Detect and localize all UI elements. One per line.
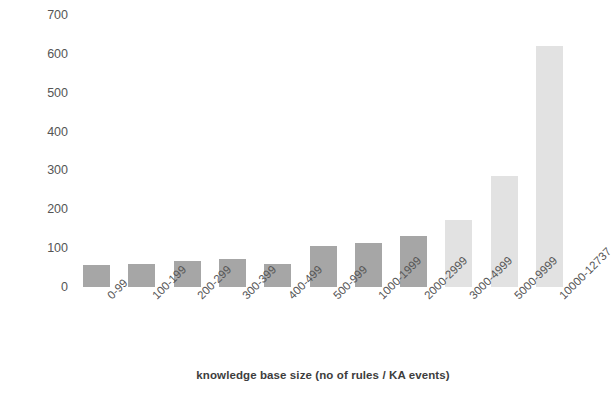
bar bbox=[83, 265, 110, 287]
y-axis-tick-labels: 0100200300400500600700 bbox=[22, 0, 68, 300]
y-axis-tick-label: 200 bbox=[22, 202, 68, 216]
y-axis-tick-label: 300 bbox=[22, 163, 68, 177]
x-axis-tick-labels: 0-99100-199200-299300-399400-499500-9991… bbox=[74, 287, 572, 367]
y-axis-tick-label: 400 bbox=[22, 125, 68, 139]
y-axis-tick-label: 700 bbox=[22, 8, 68, 22]
y-axis-tick-label: 500 bbox=[22, 86, 68, 100]
x-axis-title: knowledge base size (no of rules / KA ev… bbox=[74, 369, 572, 381]
y-axis-tick-label: 600 bbox=[22, 47, 68, 61]
plot-area bbox=[74, 15, 572, 287]
bar bbox=[128, 264, 155, 287]
bar bbox=[536, 46, 563, 287]
y-axis-tick-label: 0 bbox=[22, 280, 68, 294]
y-axis-tick-label: 100 bbox=[22, 241, 68, 255]
